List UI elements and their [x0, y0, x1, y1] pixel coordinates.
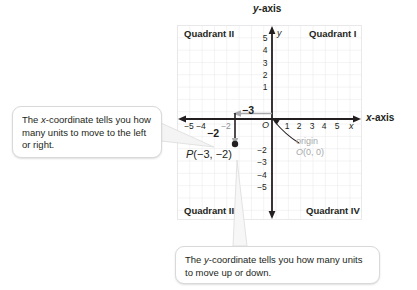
quadrant-2-label: Quadrant II: [184, 28, 234, 39]
x-axis-title: x-axis: [366, 112, 394, 123]
y-tick-5: 5: [261, 33, 269, 43]
y-tick--4: −4: [256, 170, 268, 180]
y-tick-4: 4: [261, 45, 269, 55]
callout-x-text: The x-coordinate tells you how many unit…: [22, 114, 151, 150]
callout-y-coordinate: The y-coordinate tells you how many unit…: [175, 246, 380, 284]
x-tick--4: −4: [196, 121, 206, 131]
x-move-label: −3: [242, 104, 254, 116]
callout-x-coordinate: The x-coordinate tells you how many unit…: [12, 106, 162, 158]
y-axis-title: y-axis: [253, 3, 281, 14]
quadrant-4-label: Quadrant IV: [306, 205, 360, 216]
x-tick--5: −5: [184, 121, 194, 131]
origin-label: origin O(0, 0): [296, 136, 324, 158]
y-tick-1: 1: [261, 82, 269, 92]
quadrant-3-label: Quadrant III: [184, 205, 237, 216]
origin-word: origin: [296, 136, 318, 146]
point-p-label: P(−3, −2): [186, 148, 232, 160]
figure-canvas: Quadrant II Quadrant I Quadrant III Quad…: [0, 0, 417, 290]
y-move-label: −2: [207, 127, 219, 139]
x-tick-3: 3: [308, 121, 316, 131]
y-tick--2: −2: [256, 145, 268, 155]
y-tick-2: 2: [261, 70, 269, 80]
origin-notation: O(0, 0): [296, 147, 324, 157]
x-tick-1: 1: [283, 121, 291, 131]
x-tick-5: 5: [333, 121, 341, 131]
y-tick--3: −3: [256, 157, 268, 167]
x-tick-origin-O: O: [262, 120, 269, 130]
y-tick--5: −5: [256, 182, 268, 192]
y-variable-label: y: [277, 28, 282, 38]
x-tick-2: 2: [295, 121, 303, 131]
callout-y-text: The y-coordinate tells you how many unit…: [185, 254, 362, 278]
x-tick-4: 4: [320, 121, 328, 131]
quadrant-1-label: Quadrant I: [309, 28, 357, 39]
x-variable-label: x: [349, 121, 354, 131]
x-tick--2: −2: [221, 121, 231, 131]
y-tick-3: 3: [261, 58, 269, 68]
